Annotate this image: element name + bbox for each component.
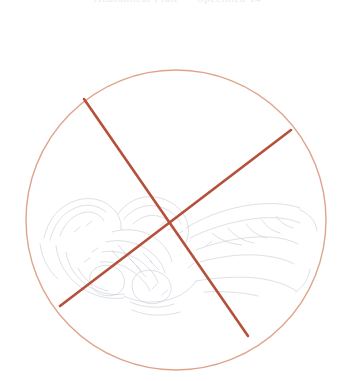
figure-plate: Anatomical Plate — Specimen 14 [0,0,355,381]
invalid-specimen-cross [60,99,291,336]
specimen-plate-svg [0,0,355,381]
cross-stroke-ne-sw [60,130,291,306]
boundary-circle [26,70,326,370]
